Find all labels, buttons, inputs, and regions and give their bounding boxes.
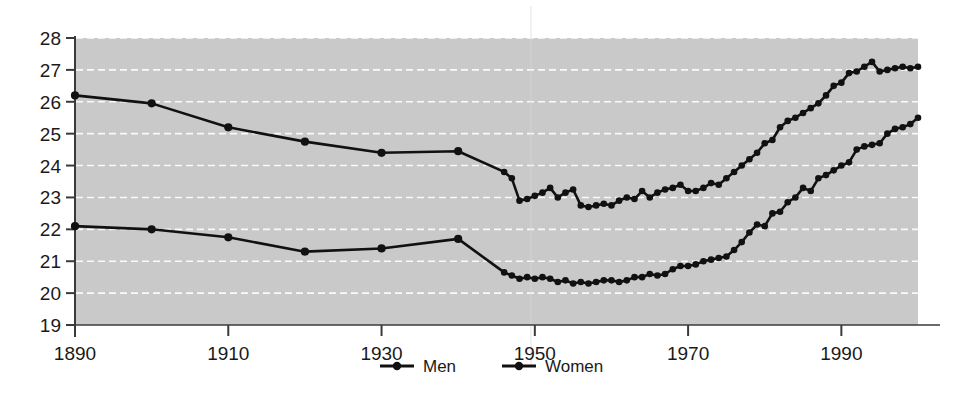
data-point <box>677 181 684 188</box>
data-point <box>700 258 707 265</box>
data-point <box>861 143 868 150</box>
data-point <box>800 110 807 117</box>
data-point <box>301 248 309 256</box>
data-point <box>646 194 653 201</box>
data-point <box>884 67 891 74</box>
data-point <box>807 188 814 195</box>
data-point <box>570 186 577 193</box>
y-tick-label: 28 <box>40 28 61 49</box>
x-tick-label: 1910 <box>207 343 249 364</box>
data-point <box>792 194 799 201</box>
data-point <box>377 244 385 252</box>
data-point <box>784 118 791 125</box>
data-point <box>685 263 692 270</box>
data-point <box>616 197 623 204</box>
data-point <box>516 275 523 282</box>
data-point <box>723 253 730 260</box>
data-point <box>899 63 906 70</box>
data-point <box>769 137 776 144</box>
data-point <box>715 255 722 262</box>
data-point <box>715 181 722 188</box>
data-point <box>654 272 661 279</box>
chart-container: 19202122232425262728 1890191019301950197… <box>0 0 956 396</box>
data-point <box>685 188 692 195</box>
data-point <box>301 138 309 146</box>
data-point <box>830 83 837 90</box>
data-point <box>692 188 699 195</box>
data-point <box>608 202 615 209</box>
data-point <box>884 130 891 137</box>
data-point <box>823 92 830 99</box>
data-point <box>662 186 669 193</box>
data-point <box>608 277 615 284</box>
data-point <box>555 279 562 286</box>
data-point <box>524 196 531 203</box>
data-point <box>593 279 600 286</box>
data-point <box>708 256 715 263</box>
data-point <box>830 167 837 174</box>
data-point <box>593 202 600 209</box>
y-tick-label: 23 <box>40 187 61 208</box>
data-point <box>731 169 738 176</box>
data-point <box>769 210 776 217</box>
data-point <box>807 105 814 112</box>
y-tick-label: 19 <box>40 315 61 336</box>
data-point <box>853 146 860 153</box>
data-point <box>662 271 669 278</box>
x-tick-label: 1890 <box>54 343 96 364</box>
plot-area-background <box>75 38 918 325</box>
data-point <box>509 175 516 182</box>
data-point <box>600 277 607 284</box>
data-point <box>524 274 531 281</box>
data-point <box>853 68 860 75</box>
data-point <box>869 142 876 149</box>
data-point <box>570 280 577 287</box>
data-point <box>846 70 853 77</box>
data-point <box>838 162 845 169</box>
y-tick-label: 27 <box>40 60 61 81</box>
data-point <box>516 197 523 204</box>
legend-marker-dot <box>515 362 523 370</box>
data-point <box>708 180 715 187</box>
data-point <box>892 65 899 72</box>
data-point <box>907 65 914 72</box>
data-point <box>547 275 554 282</box>
data-point <box>784 199 791 206</box>
data-point <box>639 274 646 281</box>
data-point <box>623 277 630 284</box>
data-point <box>148 225 156 233</box>
y-tick-label: 22 <box>40 219 61 240</box>
data-point <box>71 91 79 99</box>
data-point <box>761 140 768 147</box>
data-point <box>677 263 684 270</box>
data-point <box>562 277 569 284</box>
data-point <box>539 274 546 281</box>
data-point <box>623 194 630 201</box>
data-point <box>501 269 508 276</box>
data-point <box>869 59 876 66</box>
data-point <box>669 266 676 273</box>
y-tick-label: 20 <box>40 283 61 304</box>
data-point <box>224 233 232 241</box>
data-point <box>861 63 868 70</box>
data-point <box>815 175 822 182</box>
data-point <box>815 100 822 107</box>
data-point <box>731 247 738 254</box>
data-point <box>761 223 768 230</box>
legend-marker-dot <box>393 362 401 370</box>
data-point <box>639 188 646 195</box>
data-point <box>738 162 745 169</box>
data-point <box>800 185 807 192</box>
data-point <box>600 201 607 208</box>
data-point <box>578 202 585 209</box>
data-point <box>585 204 592 211</box>
y-tick-label: 21 <box>40 251 61 272</box>
data-point <box>669 185 676 192</box>
line-chart: 19202122232425262728 1890191019301950197… <box>0 0 956 396</box>
data-point <box>754 221 761 228</box>
data-point <box>631 196 638 203</box>
data-point <box>777 124 784 131</box>
data-point <box>792 114 799 121</box>
y-tick-label: 25 <box>40 124 61 145</box>
data-point <box>547 185 554 192</box>
